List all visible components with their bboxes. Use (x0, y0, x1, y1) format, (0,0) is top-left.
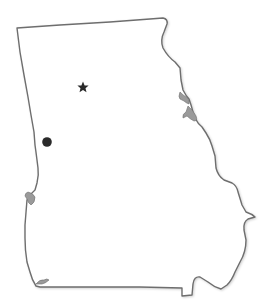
map-canvas (0, 0, 276, 304)
state-outline-map: Georgia (U.S. state) capital marker city… (0, 0, 276, 304)
state-boundary (17, 18, 255, 296)
city-dot-icon (42, 137, 52, 147)
